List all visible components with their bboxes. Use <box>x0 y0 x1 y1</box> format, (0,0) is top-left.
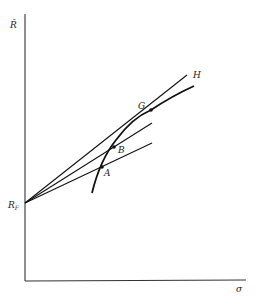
line-rf-b <box>25 123 152 203</box>
x-axis-label: σ <box>236 284 243 294</box>
line-rf-a <box>25 143 152 203</box>
risk-free-label: RF <box>7 200 20 211</box>
point-g-label: G <box>138 101 145 111</box>
y-axis-label: R̄ <box>9 19 17 30</box>
line-rf-g-h <box>25 75 187 203</box>
x-axis <box>25 280 246 281</box>
line-h-label: H <box>192 70 201 80</box>
point-b <box>112 145 116 149</box>
efficient-frontier-diagram: R̄ σ RF A B G H <box>0 0 261 300</box>
point-a-label: A <box>103 168 111 178</box>
point-b-label: B <box>117 145 125 155</box>
point-g <box>149 108 153 112</box>
